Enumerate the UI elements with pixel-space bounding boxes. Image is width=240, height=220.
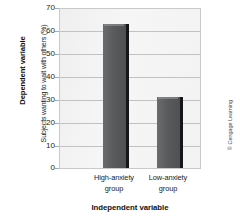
y-tick-label-50: 50 (33, 49, 55, 58)
x-axis-title: Independent variable (45, 203, 215, 212)
plot-area (59, 8, 201, 169)
y-tick-label-40: 40 (33, 72, 55, 81)
y-tick-label-30: 30 (33, 95, 55, 104)
gridline-50 (60, 54, 200, 55)
y-tick-label-0: 0 (33, 163, 55, 172)
bar-low-anxiety-shadow (180, 97, 183, 168)
x-tick-label-low-anxiety: Low-anxiety group (126, 173, 210, 194)
bar-highlight (104, 24, 124, 26)
y-tick-label-70: 70 (33, 3, 55, 12)
y-tick-label-20: 20 (33, 118, 55, 127)
dependent-variable-label: Dependent variable (18, 11, 27, 131)
bar-chart-figure: Dependent variable Subjects wanting to w… (0, 0, 240, 220)
x-tick-line2: group (159, 184, 177, 193)
x-tick-line2: group (105, 184, 123, 193)
y-tick-label-60: 60 (33, 26, 55, 35)
bar-high-anxiety-shadow (126, 24, 129, 168)
x-tick-line1: Low-anxiety (149, 173, 187, 182)
bar-highlight (158, 97, 178, 99)
copyright-notice: © Cengage Learning (227, 80, 233, 170)
gridline-60 (60, 31, 200, 32)
bar-low-anxiety-group (157, 97, 180, 168)
bar-high-anxiety-group (103, 24, 126, 168)
y-tick-label-10: 10 (33, 141, 55, 150)
gridline-40 (60, 77, 200, 78)
